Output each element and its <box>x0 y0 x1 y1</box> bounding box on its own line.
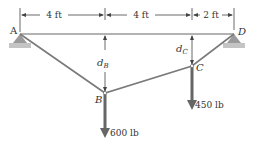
point-label-b: B <box>94 94 102 105</box>
dimension-label-cd: 2 ft <box>203 10 219 20</box>
diagram-canvas: 4 ft 4 ft 2 ft dB dC 600 lb 450 lb A <box>0 0 257 145</box>
sag-label-b: dB <box>97 57 109 70</box>
joint-c <box>190 64 193 67</box>
point-label-a: A <box>9 25 18 36</box>
point-label-d: D <box>237 26 246 37</box>
load-label-b: 600 lb <box>110 128 139 138</box>
point-label-c: C <box>196 62 204 73</box>
load-label-c: 450 lb <box>195 100 224 110</box>
support-a <box>9 34 31 48</box>
cable-diagram: 4 ft 4 ft 2 ft dB dC 600 lb 450 lb A <box>0 0 257 145</box>
joint-b <box>103 91 106 94</box>
sag-arrow-b-top <box>103 35 107 40</box>
sag-arrow-c-top <box>190 35 194 40</box>
sag-label-c: dC <box>176 43 188 56</box>
dimension-label-ab: 4 ft <box>46 10 62 20</box>
dimension-label-bc: 4 ft <box>133 10 149 20</box>
